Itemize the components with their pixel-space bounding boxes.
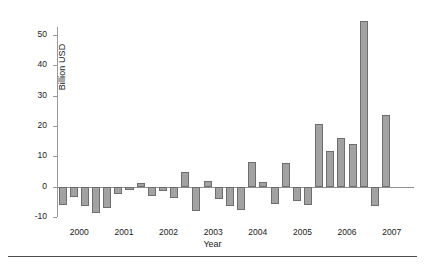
bar <box>293 187 301 201</box>
bar <box>349 144 357 186</box>
x-tick-label: 2007 <box>367 227 417 237</box>
bar <box>326 151 334 187</box>
x-tick-label: 2002 <box>144 227 194 237</box>
bar <box>114 187 122 194</box>
x-tick-label: 2006 <box>322 227 372 237</box>
bottom-divider <box>8 256 417 257</box>
bar <box>103 187 111 209</box>
bar <box>59 187 67 206</box>
bar <box>204 181 212 186</box>
bar <box>371 187 379 206</box>
y-tick-label: -10 <box>7 212 47 221</box>
plot-area: -1001020304050 <box>57 20 414 217</box>
bar <box>215 187 223 199</box>
x-axis-label: Year <box>0 239 425 249</box>
y-tick-mark <box>53 65 57 66</box>
bar <box>181 172 189 186</box>
y-tick-mark <box>53 126 57 127</box>
y-tick-label: 0 <box>7 182 47 191</box>
x-tick-label: 2000 <box>54 227 104 237</box>
bar <box>125 187 133 190</box>
y-tick-mark <box>53 217 57 218</box>
y-tick-label: 30 <box>7 91 47 100</box>
bar <box>360 21 368 187</box>
x-tick-label: 2003 <box>188 227 238 237</box>
y-tick-label: 20 <box>7 121 47 130</box>
bar <box>226 187 234 206</box>
y-tick-mark <box>53 96 57 97</box>
bar <box>304 187 312 205</box>
bar <box>248 162 256 187</box>
x-tick-label: 2001 <box>99 227 149 237</box>
y-tick-label: 10 <box>7 151 47 160</box>
bar <box>259 182 267 187</box>
y-tick-mark <box>53 35 57 36</box>
bar <box>137 183 145 187</box>
bar <box>92 187 100 213</box>
bar <box>70 187 78 197</box>
y-tick-mark <box>53 156 57 157</box>
bar <box>282 163 290 186</box>
bar <box>81 187 89 206</box>
x-tick-label: 2004 <box>233 227 283 237</box>
y-tick-label: 40 <box>7 60 47 69</box>
bar <box>170 187 178 198</box>
bar <box>271 187 279 205</box>
bar <box>337 138 345 186</box>
bar <box>315 124 323 186</box>
bar <box>237 187 245 210</box>
y-tick-label: 50 <box>7 30 47 39</box>
bar <box>382 115 390 187</box>
bar <box>148 187 156 196</box>
bar <box>192 187 200 211</box>
x-tick-label: 2005 <box>277 227 327 237</box>
y-tick-mark <box>53 187 57 188</box>
chart-figure: Billion USD -1001020304050 2000200120022… <box>0 0 425 268</box>
bar <box>159 187 167 191</box>
